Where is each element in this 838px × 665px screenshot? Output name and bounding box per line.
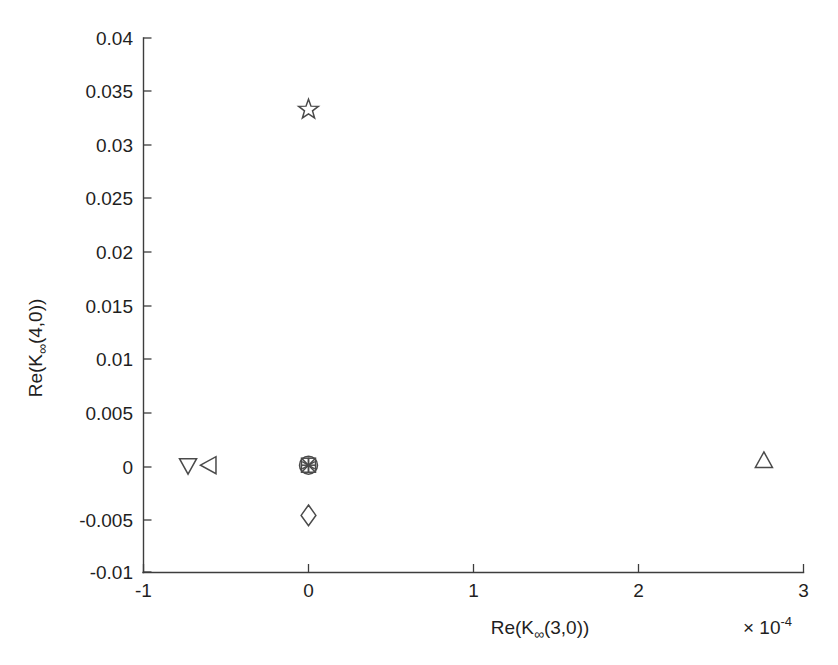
y-tick-label: 0.01 [96, 349, 133, 370]
y-tick-label: 0.02 [96, 242, 133, 263]
data-point-up-triangle [755, 452, 772, 467]
y-tick-label: -0.01 [90, 562, 133, 583]
x-exponent-power: -4 [781, 614, 793, 629]
x-axis-exponent: × 10-4 [743, 614, 792, 638]
svg-text:Re(K∞(3,0)): Re(K∞(3,0)) [491, 617, 590, 642]
y-tick-label: 0.035 [85, 81, 133, 102]
data-points-layer [180, 99, 773, 526]
x-axis-tick-labels: -1 0 1 2 3 [135, 580, 809, 601]
data-point-down-triangle [180, 459, 197, 474]
y-axis-tick-labels: 0.04 0.035 0.03 0.025 0.02 0.015 0.01 0.… [79, 28, 133, 583]
data-point-left-triangle [201, 457, 216, 474]
data-point-diamond [301, 505, 316, 526]
y-tick-label: 0 [122, 457, 133, 478]
y-tick-label: 0.005 [85, 403, 133, 424]
x-axis-title-main: Re(K [491, 617, 535, 638]
x-tick-label: 1 [468, 580, 479, 601]
y-tick-label: -0.005 [79, 510, 133, 531]
y-axis-title-infinity: ∞ [34, 344, 50, 354]
x-exponent-base: × 10 [743, 617, 781, 638]
y-axis-title-tail: (4,0)) [25, 299, 46, 344]
data-point-star [299, 99, 319, 118]
figure-canvas: 0.04 0.035 0.03 0.025 0.02 0.015 0.01 0.… [0, 0, 838, 665]
x-axis-title-infinity: ∞ [534, 626, 544, 642]
y-tick-label: 0.04 [96, 28, 133, 49]
x-tick-label: 3 [798, 580, 809, 601]
svg-text:× 10-4: × 10-4 [743, 614, 792, 638]
axes-lines [143, 38, 804, 573]
y-tick-label: 0.015 [85, 296, 133, 317]
y-tick-label: 0.03 [96, 135, 133, 156]
x-axis-title-tail: (3,0)) [544, 617, 589, 638]
x-axis-ticks [144, 564, 804, 573]
x-axis-title: Re(K∞(3,0)) [491, 617, 590, 642]
x-tick-label: 2 [633, 580, 644, 601]
scatter-plot: 0.04 0.035 0.03 0.025 0.02 0.015 0.01 0.… [0, 0, 838, 665]
y-axis-title: Re(K∞(4,0)) [25, 299, 50, 398]
y-axis-ticks [144, 38, 152, 572]
y-tick-label: 0.025 [85, 188, 133, 209]
x-tick-label: -1 [135, 580, 152, 601]
x-tick-label: 0 [303, 580, 314, 601]
y-axis-title-main: Re(K [25, 354, 46, 398]
svg-text:Re(K∞(4,0)): Re(K∞(4,0)) [25, 299, 50, 398]
